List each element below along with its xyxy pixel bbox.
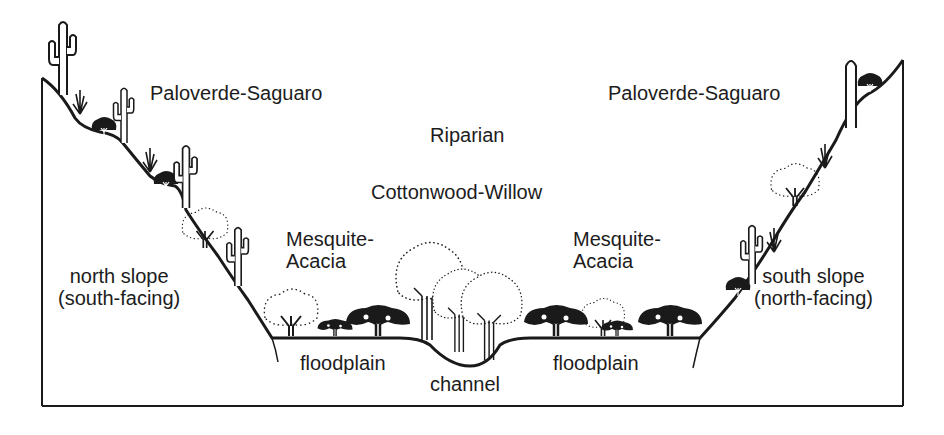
label-cottonwood-willow: Cottonwood-Willow bbox=[371, 181, 542, 203]
label-riparian: Riparian bbox=[430, 124, 504, 146]
paloverde-shrub-icon bbox=[92, 117, 117, 136]
paloverde-tree-icon bbox=[264, 289, 317, 336]
valley-cross-section-diagram bbox=[0, 0, 944, 435]
cottonwood-tree-icon bbox=[461, 272, 522, 360]
label-line: Mesquite- bbox=[286, 228, 374, 250]
label-floodplain-left: floodplain bbox=[300, 352, 386, 374]
label-line: Mesquite- bbox=[573, 228, 661, 250]
label-mesquite-acacia-right: Mesquite- Acacia bbox=[573, 228, 661, 273]
right-bank-edge bbox=[693, 338, 700, 368]
left-bank-edge bbox=[272, 338, 278, 362]
mesquite-tree-icon bbox=[601, 321, 633, 337]
mesquite-tree-icon bbox=[524, 305, 588, 336]
saguaro-cactus-icon bbox=[174, 146, 197, 208]
label-line: Acacia bbox=[286, 250, 374, 272]
label-line: south slope bbox=[754, 265, 873, 287]
saguaro-cactus-icon bbox=[49, 22, 76, 95]
ocotillo-shrub-icon bbox=[73, 90, 87, 114]
mesquite-tree-icon bbox=[346, 305, 410, 336]
label-left-paloverde-saguaro: Paloverde-Saguaro bbox=[150, 82, 322, 104]
label-line: Acacia bbox=[573, 250, 661, 272]
saguaro-cactus-icon bbox=[846, 61, 856, 128]
label-floodplain-right: floodplain bbox=[553, 352, 639, 374]
mesquite-tree-icon bbox=[638, 305, 702, 336]
saguaro-cactus-icon bbox=[114, 88, 134, 143]
label-line: north slope bbox=[58, 265, 180, 287]
saguaro-cactus-icon bbox=[227, 228, 249, 286]
label-north-slope: north slope (south-facing) bbox=[58, 265, 180, 310]
label-south-slope: south slope (north-facing) bbox=[754, 265, 873, 310]
paloverde-tree-icon bbox=[771, 164, 819, 206]
paloverde-shrub-icon bbox=[858, 73, 883, 92]
label-channel: channel bbox=[430, 373, 500, 395]
label-mesquite-acacia-left: Mesquite- Acacia bbox=[286, 228, 374, 273]
label-line: (south-facing) bbox=[58, 287, 180, 309]
label-right-paloverde-saguaro: Paloverde-Saguaro bbox=[608, 82, 780, 104]
label-line: (north-facing) bbox=[754, 287, 873, 309]
